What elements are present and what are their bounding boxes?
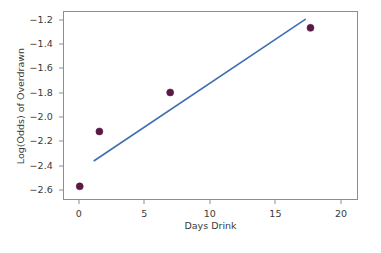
data-points-group xyxy=(76,24,314,190)
x-tick-label: 15 xyxy=(269,209,281,219)
plot-canvas xyxy=(64,12,359,201)
data-point xyxy=(307,24,314,31)
plot-area xyxy=(63,11,358,200)
y-axis-ticks: −1.2−1.4−1.6−1.8−2.0−2.2−2.4−2.6 xyxy=(0,0,63,253)
x-tick-label: 10 xyxy=(204,209,216,219)
x-tick-label: 20 xyxy=(335,209,347,219)
y-tick-label: −2.2 xyxy=(30,137,53,147)
y-tick-label: −2.6 xyxy=(30,185,53,195)
y-tick-label: −1.4 xyxy=(30,39,53,49)
data-point xyxy=(167,89,174,96)
x-tick-label: 0 xyxy=(76,209,82,219)
x-tick-mark xyxy=(275,200,276,204)
y-tick-label: −2.4 xyxy=(30,161,53,171)
y-tick-label: −1.8 xyxy=(30,88,53,98)
x-tick-label: 5 xyxy=(141,209,147,219)
y-tick-label: −2.0 xyxy=(30,112,53,122)
data-point xyxy=(76,183,83,190)
regression-line xyxy=(94,19,305,160)
x-tick-mark xyxy=(144,200,145,204)
x-tick-mark xyxy=(209,200,210,204)
chart-figure: Log(Odds) of Overdrawn −1.2−1.4−1.6−1.8−… xyxy=(0,0,381,253)
data-point xyxy=(96,128,103,135)
y-tick-label: −1.6 xyxy=(30,64,53,74)
x-tick-mark xyxy=(340,200,341,204)
regression-line-group xyxy=(94,19,305,160)
x-tick-mark xyxy=(78,200,79,204)
x-axis-title: Days Drink xyxy=(63,221,358,231)
y-tick-label: −1.2 xyxy=(30,15,53,25)
